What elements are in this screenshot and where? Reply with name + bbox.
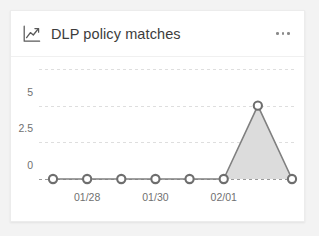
data-point-marker[interactable]: [254, 102, 262, 110]
overflow-menu-icon[interactable]: [272, 26, 294, 41]
data-point-marker[interactable]: [83, 175, 91, 183]
data-point-marker[interactable]: [185, 175, 193, 183]
y-axis-labels: 02.55: [18, 86, 33, 171]
x-tick-label: 02/01: [211, 191, 237, 203]
y-tick-label: 5: [27, 86, 33, 98]
line-chart[interactable]: 02.55 01/2801/3002/01: [11, 57, 304, 222]
x-tick-label: 01/30: [142, 191, 168, 203]
overflow-dot-3: [287, 32, 290, 35]
data-point-marker[interactable]: [220, 175, 228, 183]
data-point-marker[interactable]: [151, 175, 159, 183]
dlp-policy-matches-card: DLP policy matches 02.55 01/2801/3002/01: [10, 10, 305, 222]
x-axis-labels: 01/2801/3002/01: [74, 191, 237, 203]
y-tick-label: 2.5: [18, 122, 33, 134]
data-point-marker[interactable]: [117, 175, 125, 183]
data-point-marker[interactable]: [49, 175, 57, 183]
page-title: DLP policy matches: [51, 26, 266, 42]
card-header: DLP policy matches: [11, 11, 304, 57]
line-chart-icon: [22, 24, 42, 44]
x-tick-label: 01/28: [74, 191, 100, 203]
overflow-dot-2: [282, 32, 285, 35]
overflow-dot-1: [276, 32, 279, 35]
chart-body: 02.55 01/2801/3002/01: [11, 57, 304, 222]
data-point-marker[interactable]: [288, 175, 296, 183]
y-tick-label: 0: [27, 159, 33, 171]
dashboard-page: DLP policy matches 02.55 01/2801/3002/01: [0, 0, 319, 236]
